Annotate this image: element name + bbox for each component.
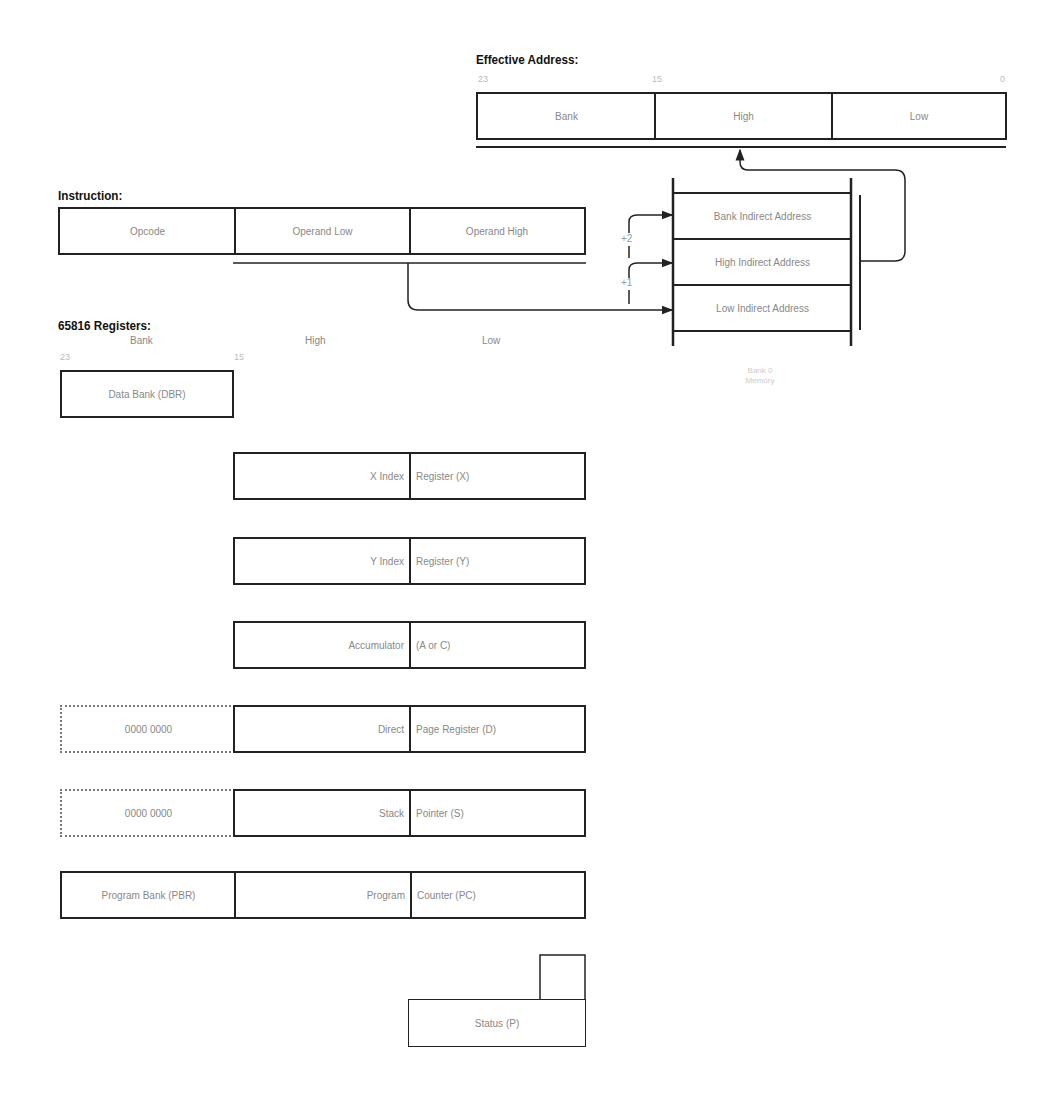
reg-tick-23: 23 — [60, 352, 70, 362]
effective-address-register: Bank High Low — [476, 92, 1007, 140]
memory-caption: Bank 0 Memory — [730, 366, 790, 386]
col-bank: Bank — [130, 335, 153, 346]
direct-page-register: Direct Page Register (D) — [233, 705, 586, 753]
x-index-register: X Index Register (X) — [233, 452, 586, 500]
dbr-label: Data Bank (DBR) — [62, 372, 232, 416]
instruction-register: Opcode Operand Low Operand High — [58, 207, 586, 255]
direct-page-label-right: Page Register (D) — [410, 707, 584, 751]
stack-pointer-label-right: Pointer (S) — [410, 791, 584, 835]
data-bank-register: Data Bank (DBR) — [60, 370, 234, 418]
direct-page-label-left: Direct — [235, 707, 410, 751]
stack-pointer-bank: 0000 0000 — [60, 789, 235, 837]
stack-pointer-bank-value: 0000 0000 — [62, 791, 235, 835]
instruction-title: Instruction: — [58, 188, 122, 203]
ea-high-field: High — [655, 94, 832, 138]
memory-caption-line2: Memory — [730, 376, 790, 386]
ea-tick-23: 23 — [478, 74, 488, 84]
program-bank-label: Program Bank (PBR) — [62, 873, 235, 917]
stack-pointer-label-left: Stack — [235, 791, 410, 835]
x-index-label-left: X Index — [235, 454, 410, 498]
program-counter-register: Program Bank (PBR) Program Counter (PC) — [60, 871, 586, 919]
col-low: Low — [482, 335, 500, 346]
memory-high-indirect: High Indirect Address — [675, 241, 850, 284]
y-index-label-left: Y Index — [235, 539, 410, 583]
status-label: Status (P) — [409, 1000, 585, 1046]
memory-caption-line1: Bank 0 — [730, 366, 790, 376]
ea-tick-0: 0 — [1000, 74, 1005, 84]
operand-low-field: Operand Low — [235, 209, 410, 253]
direct-page-bank-value: 0000 0000 — [62, 707, 235, 751]
col-high: High — [305, 335, 326, 346]
registers-title: 65816 Registers: — [58, 318, 151, 333]
ea-bank-field: Bank — [478, 94, 655, 138]
stack-pointer-register: Stack Pointer (S) — [233, 789, 586, 837]
opcode-field: Opcode — [60, 209, 235, 253]
offset-plus-1: +1 — [621, 277, 632, 288]
ea-tick-15: 15 — [652, 74, 662, 84]
status-register: Status (P) — [408, 999, 586, 1047]
ea-low-field: Low — [832, 94, 1006, 138]
operand-high-field: Operand High — [410, 209, 584, 253]
direct-page-bank: 0000 0000 — [60, 705, 235, 753]
x-index-label-right: Register (X) — [410, 454, 584, 498]
y-index-register: Y Index Register (Y) — [233, 537, 586, 585]
accumulator-register: Accumulator (A or C) — [233, 621, 586, 669]
memory-bank-indirect: Bank Indirect Address — [675, 195, 850, 238]
accumulator-label-left: Accumulator — [235, 623, 410, 667]
program-counter-label-right: Counter (PC) — [411, 873, 584, 917]
memory-low-indirect: Low Indirect Address — [675, 287, 850, 330]
offset-plus-2: +2 — [621, 233, 632, 244]
reg-tick-15: 15 — [234, 352, 244, 362]
program-counter-label-left: Program — [235, 873, 411, 917]
effective-address-title: Effective Address: — [476, 52, 578, 67]
accumulator-label-right: (A or C) — [410, 623, 584, 667]
y-index-label-right: Register (Y) — [410, 539, 584, 583]
